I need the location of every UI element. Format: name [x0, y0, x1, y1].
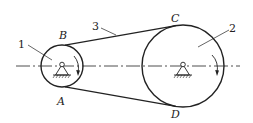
label-point-D: D	[170, 108, 180, 121]
large-pulley-pivot-icon	[174, 62, 192, 78]
label-large-pulley: 2	[229, 22, 236, 35]
belt-bottom-span	[65, 87, 176, 107]
belt-drive-diagram: 1 2 3 B A C D	[0, 0, 253, 123]
belt-top-span	[65, 26, 176, 46]
leader-line-2	[198, 30, 229, 47]
label-point-A: A	[56, 95, 65, 108]
small-pulley-pivot-icon	[53, 62, 71, 78]
leader-line-1	[28, 45, 52, 60]
label-point-C: C	[171, 12, 180, 25]
leader-line-3	[101, 28, 116, 35]
label-belt: 3	[92, 20, 99, 33]
large-pulley-rotation-arrow-icon	[212, 55, 219, 76]
label-point-B: B	[58, 29, 67, 42]
label-small-pulley: 1	[18, 38, 25, 51]
